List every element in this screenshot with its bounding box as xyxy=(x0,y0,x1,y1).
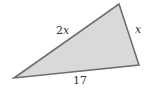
side-label-17: 17 xyxy=(73,75,87,86)
side-label-2x-var: x xyxy=(63,24,69,37)
side-label-2x: 2x xyxy=(56,25,69,36)
triangle-shape xyxy=(14,4,139,78)
side-label-2x-coef: 2 xyxy=(56,24,63,37)
side-label-x: x xyxy=(135,24,141,35)
